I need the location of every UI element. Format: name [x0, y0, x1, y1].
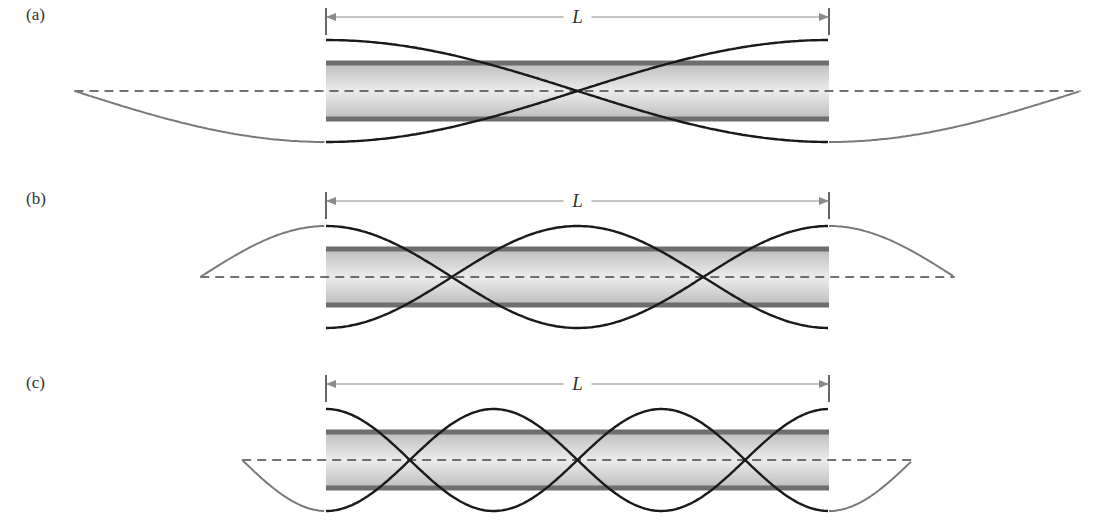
panel-c: L	[242, 373, 913, 511]
panel-a: L	[75, 6, 1081, 142]
wave-extension-left	[200, 226, 324, 277]
wave-extension-right	[829, 92, 1079, 143]
wave-extension-left	[242, 460, 324, 511]
standing-wave-diagram: L L L	[0, 0, 1109, 532]
panel-b: L	[200, 190, 955, 328]
wave-extension-right	[829, 462, 911, 511]
length-label: L	[571, 373, 583, 394]
length-label: L	[571, 6, 583, 27]
wave-extension-right	[829, 226, 953, 276]
length-label: L	[571, 190, 583, 211]
wave-extension-left	[75, 91, 325, 142]
